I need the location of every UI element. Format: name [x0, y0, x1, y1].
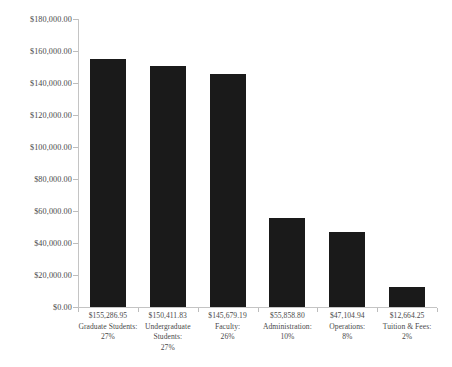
- category-percent: 8%: [317, 332, 377, 343]
- y-axis-tick-label: $120,000.00: [0, 111, 72, 120]
- category-percent: 27%: [138, 343, 198, 354]
- category-percent: 27%: [78, 332, 138, 343]
- bar: [329, 232, 365, 307]
- y-axis-tick-label: $160,000.00: [0, 47, 72, 56]
- category-name: Graduate Students:: [78, 322, 138, 333]
- category-name: Faculty:: [198, 322, 258, 333]
- category-percent: 26%: [198, 332, 258, 343]
- category-label: $145,679.19Faculty:26%: [198, 311, 258, 343]
- category-percent: 2%: [377, 332, 437, 343]
- y-axis-tick-label: $180,000.00: [0, 15, 72, 24]
- category-name: Tuition & Fees:: [377, 322, 437, 333]
- category-label: $155,286.95Graduate Students:27%: [78, 311, 138, 343]
- category-value: $12,664.25: [377, 311, 437, 322]
- bar-chart: $180,000.00$160,000.00$140,000.00$120,00…: [0, 0, 452, 367]
- x-axis-tick-mark: [437, 308, 438, 312]
- y-axis-tick-label: $0.00: [0, 303, 72, 312]
- category-name: Administration:: [258, 322, 318, 333]
- category-label: $47,104.94Operations:8%: [317, 311, 377, 343]
- y-axis-tick-label: $140,000.00: [0, 79, 72, 88]
- category-label: $55,858.80Administration:10%: [258, 311, 318, 343]
- category-value: $145,679.19: [198, 311, 258, 322]
- bar: [269, 218, 305, 307]
- plot-area: [78, 19, 437, 307]
- category-label: $12,664.25Tuition & Fees:2%: [377, 311, 437, 343]
- category-value: $150,411.83: [138, 311, 198, 322]
- bar: [90, 59, 126, 307]
- y-axis-tick-label: $100,000.00: [0, 143, 72, 152]
- bar: [389, 287, 425, 307]
- category-value: $155,286.95: [78, 311, 138, 322]
- bar: [150, 66, 186, 307]
- category-name: Undergraduate Students:: [138, 322, 198, 343]
- x-axis-category-labels: $155,286.95Graduate Students:27%$150,411…: [78, 311, 437, 367]
- bar: [210, 74, 246, 307]
- category-label: $150,411.83Undergraduate Students:27%: [138, 311, 198, 353]
- category-value: $47,104.94: [317, 311, 377, 322]
- y-axis-tick-label: $20,000.00: [0, 271, 72, 280]
- y-axis-tick-labels: $180,000.00$160,000.00$140,000.00$120,00…: [0, 0, 72, 367]
- category-percent: 10%: [258, 332, 318, 343]
- y-axis-tick-label: $80,000.00: [0, 175, 72, 184]
- category-value: $55,858.80: [258, 311, 318, 322]
- y-axis-tick-label: $40,000.00: [0, 239, 72, 248]
- category-name: Operations:: [317, 322, 377, 333]
- y-axis-tick-label: $60,000.00: [0, 207, 72, 216]
